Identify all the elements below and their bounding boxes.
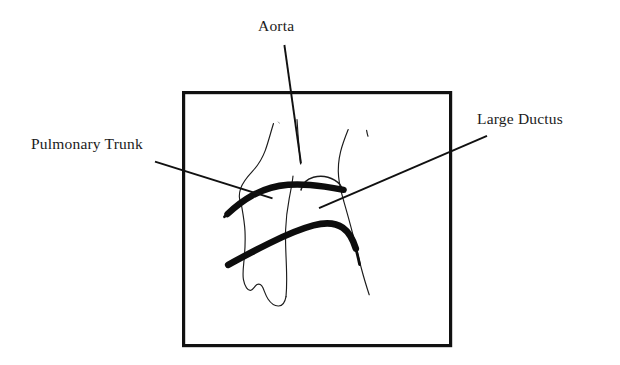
ink-speck-left <box>278 122 279 123</box>
diagram-border <box>184 93 451 346</box>
heart-sketch-thin-lines <box>239 120 369 307</box>
label-aorta: Aorta <box>258 18 294 34</box>
label-pulmonary-trunk: Pulmonary Trunk <box>31 136 143 152</box>
diagram-canvas <box>0 0 620 365</box>
label-large-ductus: Large Ductus <box>477 111 563 127</box>
aorta-leader-line <box>284 45 301 164</box>
large-ductus-leader-line <box>319 136 487 208</box>
pulmonary-trunk-leader-line <box>155 162 273 199</box>
small-tick-mark <box>367 130 368 136</box>
ductus-stroke <box>228 223 356 264</box>
ductus-stroke-taper <box>356 249 360 265</box>
figure-root: Aorta Pulmonary Trunk Large Ductus <box>0 0 620 365</box>
